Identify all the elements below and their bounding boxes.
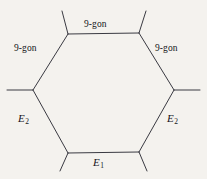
hex-edge-upper-right bbox=[139, 33, 174, 90]
hex-edge-top bbox=[68, 33, 139, 34]
figure-canvas: 9-gon 9-gon 9-gon E2 E2 E1 bbox=[0, 0, 207, 179]
hexagon-outline bbox=[33, 33, 174, 153]
stub-top-right bbox=[139, 11, 146, 33]
edge-label-bottom-subscript: 1 bbox=[100, 161, 104, 170]
edge-label-top: 9-gon bbox=[84, 20, 107, 30]
edge-label-upper-left: 9-gon bbox=[14, 44, 37, 54]
vertex-stubs bbox=[7, 11, 200, 171]
hex-edge-lower-left bbox=[33, 90, 68, 153]
hex-edge-upper-left bbox=[33, 34, 68, 90]
edge-label-lower-left-base: E bbox=[18, 112, 25, 124]
stub-top-left bbox=[62, 11, 68, 34]
edge-label-lower-left: E2 bbox=[18, 113, 29, 125]
edge-label-lower-right-subscript: 2 bbox=[174, 117, 178, 126]
edge-label-lower-right-base: E bbox=[167, 112, 174, 124]
hex-edge-bottom bbox=[68, 152, 139, 153]
edge-label-upper-right: 9-gon bbox=[155, 44, 178, 54]
edge-label-lower-right: E2 bbox=[167, 113, 178, 125]
stub-bottom-left bbox=[60, 153, 68, 171]
edge-label-bottom-base: E bbox=[93, 156, 100, 168]
stub-bottom-right bbox=[139, 152, 147, 171]
edge-label-lower-left-subscript: 2 bbox=[25, 117, 29, 126]
edge-label-bottom: E1 bbox=[93, 157, 104, 169]
